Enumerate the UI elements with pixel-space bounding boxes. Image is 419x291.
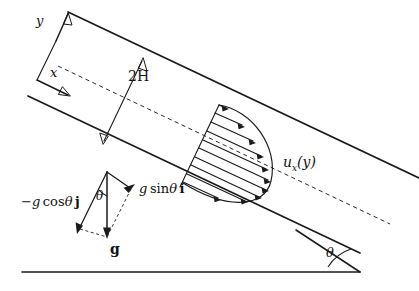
velocity-profile-label: ux(y) <box>283 155 316 173</box>
x-axis-label: x <box>50 66 57 79</box>
theta-vector-label: θ <box>96 190 103 202</box>
velocity-profile-baseline <box>180 105 219 187</box>
velocity-arrow-10 <box>183 182 218 198</box>
gravity-parallelogram-dash-lower <box>80 229 107 237</box>
gravity-along-component-shaft <box>107 172 130 188</box>
gravity-vector-arrowhead <box>103 228 111 240</box>
velocity-arrow-2 <box>215 113 242 125</box>
diagram-canvas <box>0 0 419 291</box>
y-axis-label: y <box>36 14 43 27</box>
velocity-arrowhead-5 <box>262 166 269 172</box>
velocity-arrowhead-4 <box>257 153 264 159</box>
x-axis-shaft <box>37 80 68 95</box>
gravity-normal-component-label: −g cosθ j <box>21 195 80 208</box>
x-axis-arrowhead <box>58 87 70 96</box>
theta-incline-label: θ <box>326 246 334 259</box>
inclined-film-flow-figure: y x 2H ux(y) g sinθ i −g cosθ j g θ θ <box>0 0 419 291</box>
gravity-along-component-label: g sinθ i <box>139 182 185 195</box>
velocity-arrow-3 <box>211 122 253 141</box>
channel-thickness-label: 2H <box>128 69 149 83</box>
upper-wall-line <box>68 12 419 178</box>
gravity-vector-label: g <box>110 242 120 256</box>
gravity-parallelogram-dash-right <box>107 189 131 237</box>
